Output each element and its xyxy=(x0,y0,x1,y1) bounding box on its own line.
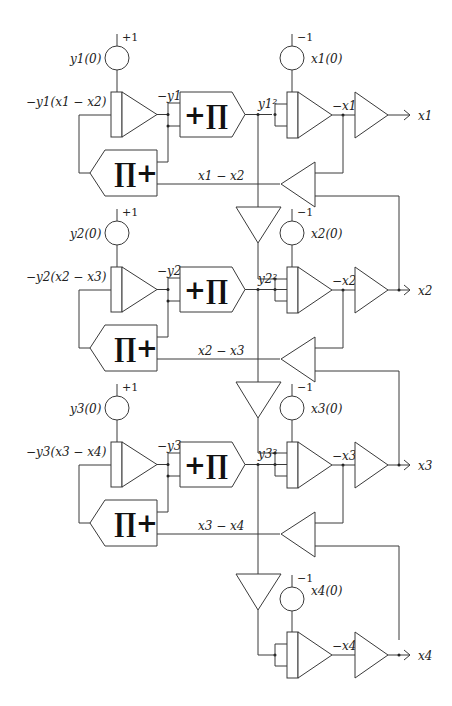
output-x4[interactable]: x4 xyxy=(418,649,432,663)
output-x1[interactable]: x1 xyxy=(418,109,432,123)
ic-label-x1: x1(0) xyxy=(311,52,343,66)
ic-potentiometer-x4[interactable] xyxy=(280,587,304,611)
ic-sign-y1: +1 xyxy=(122,31,138,44)
integrator-y3-body xyxy=(111,442,122,487)
inverter-y1-sq[interactable] xyxy=(236,207,281,243)
ic-label-x3: x3(0) xyxy=(311,402,343,416)
output-x2[interactable]: x2 xyxy=(418,284,432,298)
inverter-y2-sq[interactable] xyxy=(236,382,281,418)
inverter-x3[interactable] xyxy=(355,442,388,488)
input-label-y2: −y2(x2 − x3) xyxy=(26,270,107,284)
integrator-y3[interactable] xyxy=(122,442,157,487)
integrator-y2-body xyxy=(111,267,122,312)
multiplier-symbol: +∏ xyxy=(184,100,228,130)
analog-computer-diagram: +1 y1(0) −y1(x1 − x2) −y1 +∏ y1² ∏+ x1 −… xyxy=(0,0,452,706)
ic-sign-x3: −1 xyxy=(297,381,313,394)
integrator-y1-body xyxy=(111,92,122,137)
ic-sign-x2: −1 xyxy=(297,206,313,219)
ic-potentiometer-x3[interactable] xyxy=(280,396,304,420)
output-label-neg-x2: −x2 xyxy=(332,274,356,288)
multiplier-symbol: +∏ xyxy=(184,275,228,305)
inverter-x1[interactable] xyxy=(355,92,388,138)
stage-1: +1 y1(0) −y1(x1 − x2) −y1 +∏ y1² ∏+ x1 −… xyxy=(26,31,432,290)
output-x3[interactable]: x3 xyxy=(418,459,433,473)
diff-label-x2-x3: x2 − x3 xyxy=(198,344,245,358)
inverter-x2[interactable] xyxy=(355,267,388,313)
diff-label-x3-x4: x3 − x4 xyxy=(198,519,245,533)
output-label-neg-x3: −x3 xyxy=(332,449,357,463)
summer-diff-3[interactable] xyxy=(281,512,315,557)
integrator-x1-body xyxy=(287,92,298,138)
ic-potentiometer-y3[interactable] xyxy=(105,396,129,420)
multiplier-symbol: +∏ xyxy=(184,450,228,480)
stage-3: +1 y3(0) −y3(x3 − x4) −y3 +∏ y3² ∏+ x3 −… xyxy=(26,381,433,640)
ic-potentiometer-y1[interactable] xyxy=(105,46,129,70)
integrator-y2[interactable] xyxy=(122,267,157,312)
integrator-x2-body xyxy=(287,267,298,313)
multiplier-symbol: ∏+ xyxy=(114,508,158,538)
ic-potentiometer-x1[interactable] xyxy=(280,46,304,70)
inverter-x4[interactable] xyxy=(355,632,388,678)
multiplier-symbol: ∏+ xyxy=(114,158,158,188)
ic-label-x2: x2(0) xyxy=(311,227,343,241)
stage-2: +1 y2(0) −y2(x2 − x3) −y2 +∏ y2² ∏+ x2 −… xyxy=(26,206,432,465)
summer-diff-1[interactable] xyxy=(281,162,315,207)
summer-diff-2[interactable] xyxy=(281,337,315,382)
inverter-y3-sq[interactable] xyxy=(236,574,281,610)
output-label-y1-sq: y1² xyxy=(257,97,277,111)
ic-label-y2: y2(0) xyxy=(69,227,102,241)
ic-potentiometer-y2[interactable] xyxy=(105,221,129,245)
integrator-y1[interactable] xyxy=(122,92,157,137)
final-stage: −1 x4(0) −x4 x4 xyxy=(275,572,432,678)
integrator-x3[interactable] xyxy=(298,442,332,488)
ic-sign-x1: −1 xyxy=(297,31,313,44)
output-label-neg-y1: −y1 xyxy=(157,89,181,103)
output-label-neg-y3: −y3 xyxy=(157,439,182,453)
integrator-x4-body xyxy=(287,632,298,678)
input-label-y3: −y3(x3 − x4) xyxy=(26,445,107,459)
integrator-x2[interactable] xyxy=(298,267,332,313)
integrator-x1[interactable] xyxy=(298,92,332,138)
ic-label-y1: y1(0) xyxy=(69,52,102,66)
integrator-x4[interactable] xyxy=(298,632,332,678)
multiplier-symbol: ∏+ xyxy=(114,333,158,363)
output-label-neg-x1: −x1 xyxy=(332,99,356,113)
ic-label-y3: y3(0) xyxy=(69,402,102,416)
ic-sign-y2: +1 xyxy=(122,206,138,219)
output-label-neg-x4: −x4 xyxy=(332,639,356,653)
integrator-x3-body xyxy=(287,442,298,488)
ic-sign-y3: +1 xyxy=(122,381,138,394)
output-label-neg-y2: −y2 xyxy=(157,264,181,278)
ic-label-x4: x4(0) xyxy=(311,584,343,598)
diff-label-x1-x2: x1 − x2 xyxy=(198,169,245,183)
output-label-y3-sq: y3² xyxy=(257,447,277,461)
output-label-y2-sq: y2² xyxy=(257,272,277,286)
ic-potentiometer-x2[interactable] xyxy=(280,221,304,245)
input-label-y1: −y1(x1 − x2) xyxy=(26,95,107,109)
